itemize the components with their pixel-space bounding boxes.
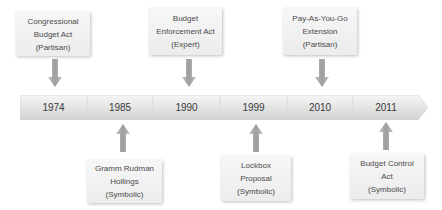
event-category: (Expert) bbox=[171, 38, 199, 51]
timeline-year-1985: 1985 bbox=[87, 95, 153, 120]
event-category: (Partisan) bbox=[36, 41, 71, 54]
timeline-year-1990: 1990 bbox=[153, 95, 220, 120]
event-box-congressional-budget-act: Congressional Budget Act (Partisan) bbox=[16, 12, 90, 56]
timeline-bar: 1974 1985 1990 1999 2010 2011 bbox=[20, 95, 428, 120]
event-title-line1: Lockbox bbox=[241, 159, 271, 172]
event-title-line1: Budget bbox=[173, 12, 198, 25]
event-title-line1: Congressional bbox=[27, 15, 78, 28]
event-title-line1: Pay-As-You-Go bbox=[292, 12, 347, 25]
event-title-line1: Budget Control bbox=[360, 157, 413, 170]
timeline-year-2010: 2010 bbox=[287, 95, 353, 120]
timeline-year-1999: 1999 bbox=[220, 95, 287, 120]
event-title-line2: Proposal bbox=[240, 172, 272, 185]
event-title-line2: Act bbox=[381, 170, 393, 183]
event-box-pay-as-you-go-extension: Pay-As-You-Go Extension (Partisan) bbox=[283, 8, 357, 55]
timeline-year-1974: 1974 bbox=[20, 95, 87, 120]
up-arrow-icon bbox=[116, 124, 130, 152]
event-title-line2: Enforcement Act bbox=[156, 25, 215, 38]
event-title-line2: Extension bbox=[302, 25, 337, 38]
timeline-year-2011: 2011 bbox=[353, 95, 419, 120]
down-arrow-icon bbox=[315, 59, 329, 87]
event-category: (Symbolic) bbox=[368, 183, 406, 196]
event-box-budget-enforcement-act: Budget Enforcement Act (Expert) bbox=[149, 8, 222, 55]
event-category: (Partisan) bbox=[303, 38, 338, 51]
event-title-line2: Hollings bbox=[110, 175, 138, 188]
event-category: (Symbolic) bbox=[237, 185, 275, 198]
event-title-line1: Gramm Rudman bbox=[95, 162, 154, 175]
up-arrow-icon bbox=[249, 124, 263, 152]
event-box-budget-control-act: Budget Control Act (Symbolic) bbox=[350, 154, 424, 199]
event-category: (Symbolic) bbox=[106, 188, 144, 201]
event-box-lockbox-proposal: Lockbox Proposal (Symbolic) bbox=[221, 156, 291, 201]
up-arrow-icon bbox=[379, 122, 393, 150]
event-box-gramm-rudman-hollings: Gramm Rudman Hollings (Symbolic) bbox=[87, 160, 162, 203]
down-arrow-icon bbox=[182, 59, 196, 87]
down-arrow-icon bbox=[48, 59, 62, 87]
event-title-line2: Budget Act bbox=[34, 28, 73, 41]
